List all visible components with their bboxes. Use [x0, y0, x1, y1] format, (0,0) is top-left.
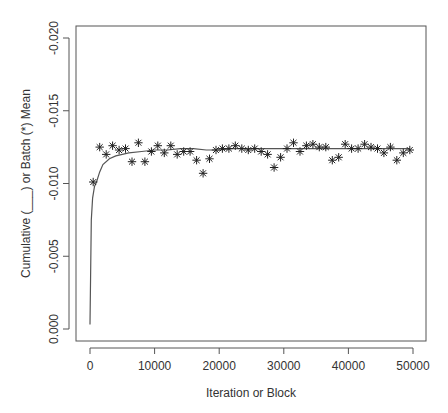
- batch-mean-point: [102, 150, 110, 158]
- batch-mean-point: [263, 150, 271, 158]
- batch-mean-point: [367, 143, 375, 151]
- batch-mean-point: [205, 155, 213, 163]
- batch-mean-point: [199, 169, 207, 177]
- batch-mean-point: [147, 147, 155, 155]
- y-tick-label: -0.020: [47, 21, 61, 55]
- batch-mean-point: [186, 147, 194, 155]
- y-tick-label: -0.005: [47, 239, 61, 273]
- batch-mean-point: [270, 163, 278, 171]
- x-axis-title: Iteration or Block: [206, 386, 297, 400]
- batch-mean-point: [302, 142, 310, 150]
- batch-mean-point: [96, 143, 104, 151]
- batch-mean-point: [167, 142, 175, 150]
- batch-mean-point: [354, 144, 362, 152]
- y-axis: 0.000-0.005-0.010-0.015-0.020: [47, 21, 69, 344]
- y-tick-label: -0.015: [47, 93, 61, 127]
- x-tick-label: 40000: [332, 359, 366, 373]
- batch-mean-point: [160, 149, 168, 157]
- batch-mean-point: [134, 139, 142, 147]
- x-tick-label: 10000: [138, 359, 172, 373]
- batch-mean-point: [296, 147, 304, 155]
- batch-mean-point: [238, 144, 246, 152]
- batch-mean-point: [322, 143, 330, 151]
- x-tick-label: 0: [87, 359, 94, 373]
- batch-mean-point: [406, 146, 414, 154]
- batch-mean-point: [335, 153, 343, 161]
- batch-mean-point: [141, 158, 149, 166]
- batch-mean-point: [386, 143, 394, 151]
- batch-mean-point: [121, 144, 129, 152]
- batch-mean-point: [154, 142, 162, 150]
- cumulative-mean-line: [90, 149, 410, 325]
- y-tick-label: -0.010: [47, 166, 61, 200]
- batch-mean-point: [108, 142, 116, 150]
- x-tick-label: 30000: [267, 359, 301, 373]
- batch-mean-point: [115, 146, 123, 154]
- plot-area: [76, 26, 426, 341]
- x-tick-label: 50000: [396, 359, 430, 373]
- batch-mean-point: [289, 139, 297, 147]
- chart: 01000020000300004000050000 0.000-0.005-0…: [0, 0, 448, 413]
- batch-mean-point: [276, 153, 284, 161]
- batch-mean-point: [212, 146, 220, 154]
- batch-mean-point: [283, 144, 291, 152]
- x-tick-label: 20000: [203, 359, 237, 373]
- batch-mean-point: [128, 158, 136, 166]
- batch-mean-point: [341, 140, 349, 148]
- batch-mean-point: [393, 156, 401, 164]
- x-axis: 01000020000300004000050000: [87, 348, 430, 373]
- batch-mean-markers: [89, 139, 414, 187]
- batch-mean-point: [244, 146, 252, 154]
- batch-mean-point: [373, 144, 381, 152]
- batch-mean-point: [192, 156, 200, 164]
- y-axis-title: Cumulative (___) or Batch (*) Mean: [19, 89, 33, 278]
- y-tick-label: 0.000: [47, 314, 61, 344]
- batch-mean-point: [380, 149, 388, 157]
- batch-mean-point: [89, 178, 97, 186]
